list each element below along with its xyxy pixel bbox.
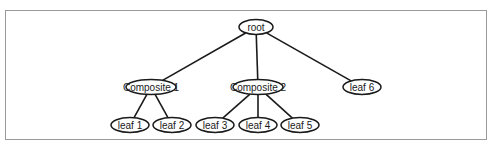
tree-node-leaf3: leaf 3 [196,118,234,133]
node-label: Composite 2 [230,82,287,93]
tree-node-leaf5: leaf 5 [281,118,319,133]
edge-root-composite2 [256,34,258,79]
node-label: leaf 1 [118,120,143,131]
tree-node-composite1: Composite 1 [123,80,180,95]
edge-composite2-leaf5 [266,94,293,118]
edge-root-leaf6 [266,33,351,81]
edges-layer [134,33,351,118]
edge-composite2-leaf3 [223,94,250,118]
node-label: leaf 2 [160,120,185,131]
tree-node-leaf1: leaf 1 [111,118,149,133]
tree-node-composite2: Composite 2 [230,80,287,95]
node-label: leaf 5 [288,120,313,131]
tree-node-leaf6: leaf 6 [343,80,381,95]
node-label: Composite 1 [123,82,180,93]
edge-composite1-leaf2 [155,94,168,117]
nodes-layer: rootComposite 1Composite 2leaf 6leaf 1le… [111,20,381,133]
node-label: root [247,22,264,33]
node-label: leaf 6 [350,82,375,93]
edge-composite1-leaf1 [134,94,147,117]
tree-node-leaf2: leaf 2 [153,118,191,133]
node-label: leaf 3 [203,120,228,131]
tree-diagram: rootComposite 1Composite 2leaf 6leaf 1le… [0,0,494,148]
edge-root-composite1 [163,33,246,80]
node-label: leaf 4 [246,120,271,131]
tree-node-leaf4: leaf 4 [239,118,277,133]
tree-node-root: root [239,20,273,35]
